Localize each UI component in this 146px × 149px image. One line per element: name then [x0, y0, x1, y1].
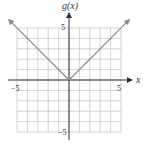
y-axis-label: g(x): [62, 0, 79, 12]
y-tick-label-neg5: −5: [58, 128, 67, 137]
graph-g-of-x: g(x) x −5 5 5 −5: [0, 0, 146, 149]
x-axis-label: x: [135, 74, 141, 85]
y-tick-label-pos5: 5: [61, 23, 65, 32]
x-tick-label-neg5: −5: [11, 84, 20, 93]
x-tick-label-pos5: 5: [117, 84, 121, 93]
